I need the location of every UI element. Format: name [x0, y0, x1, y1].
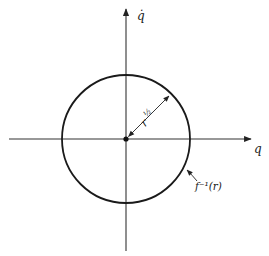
svg-text:r: r: [138, 116, 151, 129]
qdot-axis-label: q̇: [137, 9, 145, 23]
curve-label: f⁻¹(r): [194, 180, 222, 192]
svg-text:½: ½: [142, 107, 154, 119]
origin-dot: [123, 136, 128, 141]
q-axis-label: q: [254, 142, 262, 156]
phase-diagram: q̇ q r ½ f⁻¹(r): [0, 0, 269, 256]
